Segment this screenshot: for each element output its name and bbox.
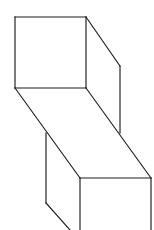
upper-front-face xyxy=(15,17,86,88)
stepped-block-drawing xyxy=(0,0,154,230)
figure-canvas xyxy=(0,0,154,230)
slant-top-face xyxy=(15,88,151,178)
figure-face-group xyxy=(15,17,151,230)
lower-front-face xyxy=(80,178,151,230)
